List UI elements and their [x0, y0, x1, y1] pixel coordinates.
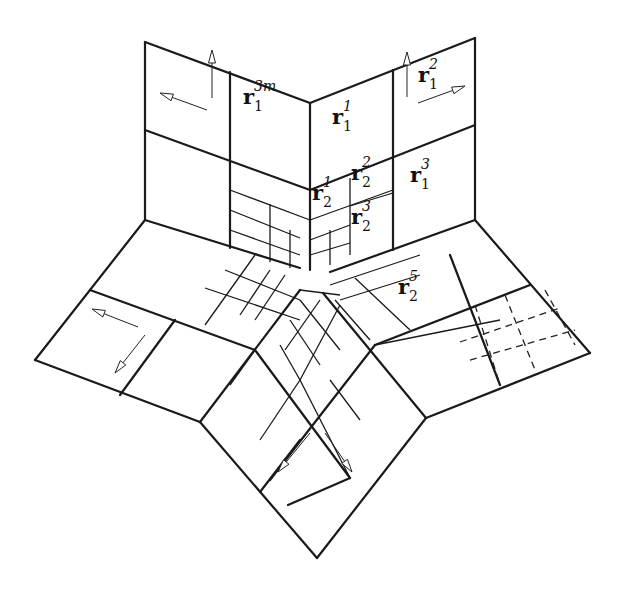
mesh-edge [120, 320, 175, 395]
mesh-edge [260, 380, 300, 440]
mesh-edge [450, 255, 500, 385]
label-r1_2: r21 [418, 62, 429, 87]
mesh-edge [290, 320, 320, 365]
label-r2_5: r52 [398, 274, 409, 299]
mesh-edge [375, 320, 500, 345]
frame-left-down-arrow-icon [123, 335, 145, 363]
frame-top-left-left-arrow-icon [172, 97, 207, 110]
label-r2_2: r22 [351, 160, 362, 185]
mesh-edge [260, 440, 300, 492]
mesh-edge [145, 130, 310, 190]
mesh-edge [90, 290, 255, 350]
folded-mesh-diagram [0, 0, 620, 594]
mesh-edge [335, 300, 370, 340]
mesh-edge [505, 295, 535, 370]
mesh-edge [225, 270, 300, 300]
label-r2_3: r32 [351, 204, 362, 229]
arrowhead-icon [92, 309, 105, 317]
mesh-edge [475, 220, 590, 353]
mesh-edge [323, 293, 426, 418]
label-r1_3m: r3m1 [243, 84, 254, 109]
mesh-edge [426, 353, 590, 418]
arrowhead-icon [404, 52, 411, 65]
mesh-edge [285, 300, 320, 350]
arrowhead-icon [452, 86, 465, 94]
arrowhead-icon [209, 50, 216, 63]
arrowhead-icon [160, 93, 173, 101]
frame-left-left-arrow-icon [104, 314, 138, 327]
mesh-edge [280, 345, 300, 380]
mesh-edge [255, 350, 350, 478]
mesh-edge [145, 220, 300, 268]
label-r1_1: r11 [332, 104, 343, 129]
frame-top-right-right-arrow-icon [418, 90, 453, 103]
mesh-edge [300, 290, 340, 295]
arrowhead-icon [115, 361, 126, 373]
mesh-edge [317, 418, 426, 558]
label-r2_1: r12 [312, 180, 323, 205]
mesh-edge [230, 350, 255, 385]
frame-bottom-left-arrow-icon [286, 433, 310, 462]
label-r1_3: r31 [410, 162, 421, 187]
mesh-edge [288, 478, 350, 505]
mesh-edge [330, 380, 360, 420]
